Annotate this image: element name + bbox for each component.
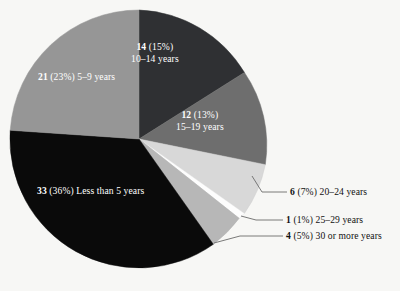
slice-percent-10-14-years: (15%)	[146, 41, 173, 52]
slice-value-15-19-years: 12	[181, 109, 191, 120]
slice-percent-15-19-years: (13%)	[191, 109, 218, 120]
callout-text-20-24-years: (7%) 20–24 years	[295, 186, 367, 197]
slice-value-less-than-5-years: 33	[37, 185, 47, 196]
leader-line-30-or-more-years	[214, 236, 283, 243]
slice-percent-less-than-5-years: (36%) Less than 5 years	[47, 185, 145, 196]
slice-value-10-14-years: 14	[136, 41, 146, 52]
callout-text-30-or-more-years: (5%) 30 or more years	[291, 230, 382, 241]
callout-label-25-29-years: 1 (1%) 25–29 years	[286, 214, 363, 226]
pie-chart-svg	[0, 0, 400, 291]
slice-value-5-9-years: 21	[38, 71, 48, 82]
slice-label-15-19-years: 12 (13%) 15–19 years	[176, 109, 224, 133]
slice-label-5-9-years: 21 (23%) 5–9 years	[38, 71, 115, 83]
callout-text-25-29-years: (1%) 25–29 years	[291, 214, 363, 225]
leader-line-25-29-years	[241, 216, 283, 220]
slice-category-15-19-years: 15–19 years	[176, 121, 224, 132]
pie-chart-figure: 14 (15%) 10–14 years 12 (13%) 15–19 year…	[0, 0, 400, 291]
callout-label-30-or-more-years: 4 (5%) 30 or more years	[286, 230, 382, 242]
callout-label-20-24-years: 6 (7%) 20–24 years	[290, 186, 367, 198]
slice-percent-5-9-years: (23%) 5–9 years	[48, 71, 115, 82]
slice-label-10-14-years: 14 (15%) 10–14 years	[131, 41, 179, 65]
slice-category-10-14-years: 10–14 years	[131, 53, 179, 64]
slice-label-less-than-5-years: 33 (36%) Less than 5 years	[37, 185, 144, 197]
